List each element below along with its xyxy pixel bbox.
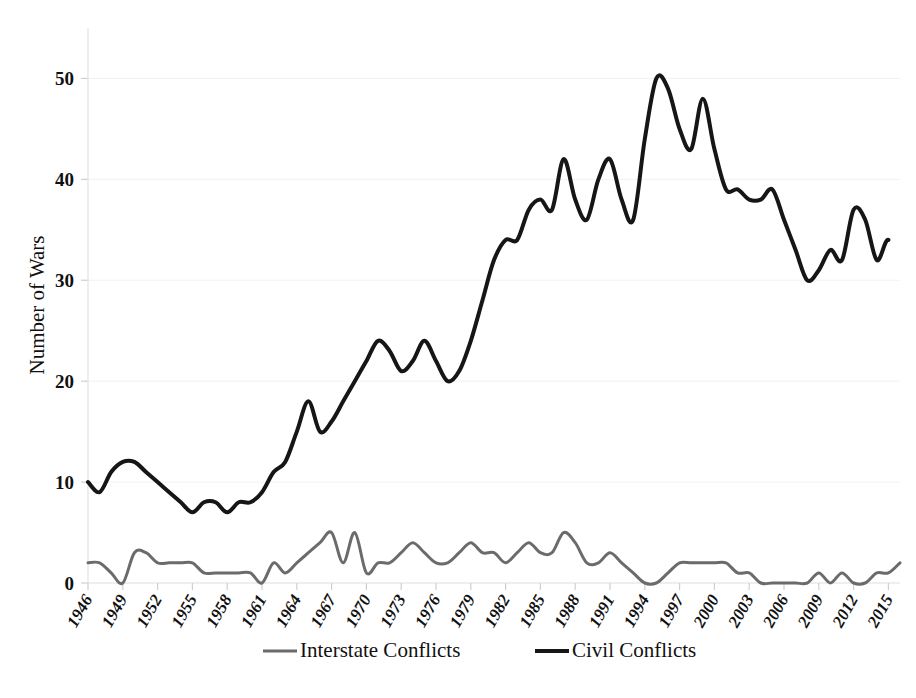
x-tick-label-1988: 1988 (550, 591, 584, 630)
x-tick-label-2015: 2015 (863, 591, 897, 631)
x-tick-label-2009: 2009 (793, 591, 827, 631)
legend-item-civil-conflicts[interactable]: Civil Conflicts (535, 638, 696, 662)
y-axis-title: Number of Wars (25, 235, 49, 374)
y-tick-label-30: 30 (55, 270, 74, 291)
series-line-civil-conflicts (88, 75, 888, 512)
x-tick-labels-group: 1946194919521955195819611964196719701973… (63, 590, 897, 631)
x-tick-label-1997: 1997 (655, 590, 689, 630)
x-tick-label-1961: 1961 (237, 592, 270, 631)
x-tick-label-1991: 1991 (585, 592, 618, 631)
x-tick-label-2006: 2006 (759, 591, 793, 631)
x-tick-label-1952: 1952 (133, 591, 167, 630)
x-tick-label-2012: 2012 (828, 591, 862, 631)
y-tick-label-0: 0 (65, 573, 75, 594)
legend-label-0: Interstate Conflicts (300, 638, 460, 662)
y-tick-label-20: 20 (55, 371, 74, 392)
legend-item-interstate-conflicts[interactable]: Interstate Conflicts (263, 638, 460, 662)
chart-legend: Interstate ConflictsCivil Conflicts (263, 638, 696, 662)
chart-figure: 01020304050 1946194919521955195819611964… (0, 0, 916, 698)
line-chart-canvas: 01020304050 1946194919521955195819611964… (0, 0, 916, 698)
x-tick-label-1982: 1982 (481, 591, 515, 630)
x-tick-label-1955: 1955 (167, 591, 201, 630)
x-tick-label-1994: 1994 (620, 592, 653, 631)
x-tick-label-1979: 1979 (446, 591, 480, 630)
x-tick-label-1976: 1976 (411, 591, 445, 630)
x-tick-label-2000: 2000 (689, 591, 723, 631)
x-tick-label-1958: 1958 (202, 591, 236, 630)
y-tick-label-40: 40 (55, 169, 74, 190)
x-tick-label-1973: 1973 (376, 591, 410, 630)
y-tick-label-50: 50 (55, 68, 74, 89)
y-tick-labels-group: 01020304050 (55, 68, 74, 594)
x-tick-label-1970: 1970 (341, 591, 375, 630)
gridlines-group (81, 78, 900, 583)
x-tick-label-1985: 1985 (515, 591, 549, 630)
x-tick-label-1949: 1949 (98, 591, 132, 630)
series-group (88, 75, 900, 584)
x-tick-label-2003: 2003 (724, 591, 758, 631)
series-line-interstate-conflicts (88, 532, 900, 584)
x-tick-label-1964: 1964 (272, 592, 305, 631)
x-tick-label-1967: 1967 (307, 590, 341, 630)
y-tick-label-10: 10 (55, 472, 74, 493)
legend-label-1: Civil Conflicts (572, 638, 696, 662)
x-tick-label-1946: 1946 (63, 591, 97, 630)
